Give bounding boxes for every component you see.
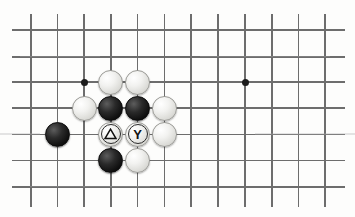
white-stone-marked-y[interactable]: Y: [125, 122, 150, 147]
stone-mark-ring: [101, 124, 121, 144]
black-stone[interactable]: [125, 96, 150, 121]
stone-mark-ring: [128, 124, 148, 144]
white-stone[interactable]: [72, 96, 97, 121]
white-stone[interactable]: [152, 122, 177, 147]
white-stone[interactable]: [125, 148, 150, 173]
white-stone-marked-triangle[interactable]: [98, 122, 123, 147]
black-stone[interactable]: [98, 148, 123, 173]
black-stone[interactable]: [45, 122, 70, 147]
white-stone[interactable]: [98, 70, 123, 95]
white-stone[interactable]: [152, 96, 177, 121]
white-stone[interactable]: [125, 70, 150, 95]
board-stones: Y: [0, 0, 355, 217]
black-stone[interactable]: [98, 96, 123, 121]
go-board-diagram: Y: [0, 0, 355, 217]
